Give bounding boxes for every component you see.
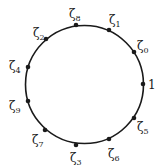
label-z3: ζ3 [70, 151, 82, 167]
label-z8: ζ8 [69, 7, 81, 23]
label-z6: ζ6 [108, 147, 120, 163]
label-z0: ζ0 [137, 39, 149, 55]
label-one: 1 [148, 78, 156, 92]
label-z4: ζ4 [9, 59, 21, 75]
point-z4 [26, 65, 31, 70]
roots-of-unity-diagram: 1ζ0ζ1ζ8ζ2ζ4ζ9ζ7ζ3ζ6ζ5 [0, 0, 163, 167]
point-z6 [107, 137, 112, 142]
point-z0 [132, 50, 137, 55]
label-z9: ζ9 [9, 99, 21, 115]
label-z2: ζ2 [33, 26, 45, 42]
point-z8 [74, 23, 79, 28]
label-z1: ζ1 [109, 13, 121, 29]
point-z3 [74, 143, 79, 148]
point-z5 [132, 116, 137, 121]
label-z5: ζ5 [137, 120, 149, 136]
point-z7 [43, 128, 48, 133]
point-z9 [26, 99, 31, 104]
unit-circle [26, 26, 144, 144]
point-z1 [107, 28, 112, 33]
point-one [141, 82, 146, 87]
label-z7: ζ7 [32, 133, 44, 149]
